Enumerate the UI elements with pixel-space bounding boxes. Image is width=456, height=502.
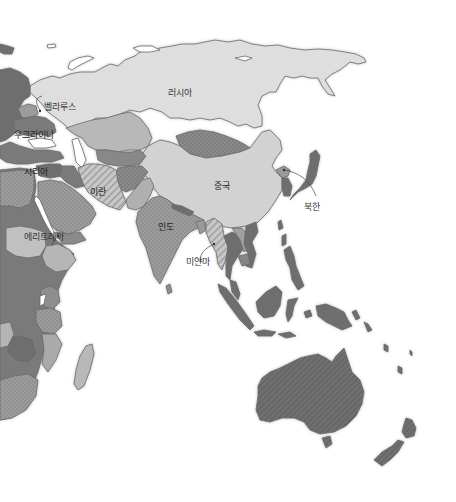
region-australia — [256, 348, 364, 434]
region-philippines — [284, 246, 304, 290]
region-borneo — [256, 286, 282, 318]
asia-political-map — [0, 0, 456, 502]
label-ukraine: 우크라이나 — [14, 130, 54, 141]
region-mozambique — [42, 334, 62, 372]
label-india: 인도 — [158, 222, 174, 233]
region-south-africa — [0, 374, 38, 420]
region-central-asia — [96, 150, 146, 166]
label-iran: 이란 — [90, 187, 106, 198]
region-new-guinea — [316, 304, 352, 330]
region-bangladesh — [196, 220, 206, 234]
region-new-zealand — [374, 418, 416, 466]
label-belarus: 벨라루스 — [44, 102, 76, 113]
label-eritrea: 에리트레아 — [24, 232, 64, 243]
region-cambodia — [238, 254, 250, 266]
region-madagascar — [74, 344, 94, 390]
label-russia: 러시아 — [168, 88, 192, 99]
label-north-korea: 북한 — [304, 202, 320, 213]
region-russia — [30, 40, 366, 130]
region-sulawesi — [286, 298, 298, 322]
region-south-korea — [282, 178, 292, 196]
region-tasmania — [322, 436, 332, 448]
label-china: 중국 — [214, 181, 230, 192]
label-myanmar: 미얀마 — [186, 257, 210, 268]
label-syria: 시리아 — [24, 167, 48, 178]
region-japan — [290, 150, 320, 200]
